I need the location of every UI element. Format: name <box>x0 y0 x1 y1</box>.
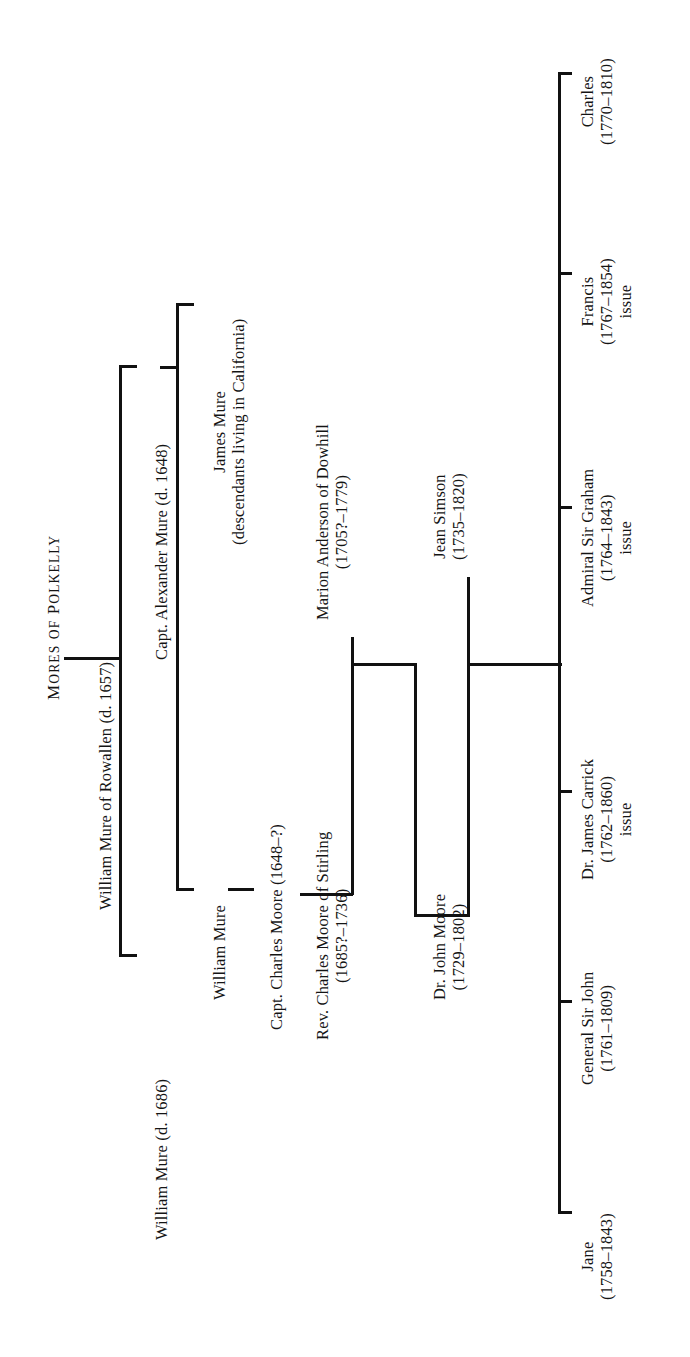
node-william-mure: William Mure <box>210 905 229 1000</box>
sibling-bar-alexander-children <box>176 303 179 891</box>
tick-james-mure <box>176 303 194 306</box>
node-label-name: General Sir John <box>578 972 597 1085</box>
tick-capt-charles-moore <box>228 888 254 891</box>
connector-john-jean-to-children <box>467 663 562 666</box>
node-label-name: Marion Anderson of Dowhill <box>313 424 332 620</box>
node-label-name: Jane <box>578 1213 597 1300</box>
tick-william-mure-1686 <box>119 954 137 957</box>
title-part-mores-cap: M <box>44 684 63 700</box>
node-william-mure-rowallen: William Mure of Rowallen (d. 1657) <box>96 662 115 910</box>
node-label-dates: (1685?–1736) <box>332 832 351 1040</box>
tick-child-james-carrick <box>558 790 572 793</box>
node-label-note: issue <box>616 469 635 607</box>
node-label-dates: (1758–1843) <box>597 1213 616 1300</box>
node-james-mure: James Mure (descendants living in Califo… <box>210 319 248 545</box>
node-child-francis: Francis (1767–1854) issue <box>578 258 635 345</box>
tick-william-mure <box>176 888 194 891</box>
node-label-note: (descendants living in California) <box>229 319 248 545</box>
node-child-jane: Jane (1758–1843) <box>578 1213 616 1300</box>
title-part-of: OF <box>47 620 62 640</box>
node-label-text: Capt. Alexander Mure (d. 1648) <box>152 444 171 660</box>
node-label-dates: (1762–1860) <box>597 759 616 880</box>
node-marion-anderson-dowhill: Marion Anderson of Dowhill (1705?–1779) <box>313 424 351 620</box>
node-child-dr-james-carrick: Dr. James Carrick (1762–1860) issue <box>578 759 635 880</box>
node-jean-simson: Jean Simson (1735–1820) <box>430 473 468 560</box>
node-label-dates: (1764–1843) <box>597 469 616 607</box>
tick-child-francis <box>558 272 572 275</box>
node-label-dates: (1735–1820) <box>449 473 468 560</box>
node-label-text: William Mure (d. 1686) <box>152 1079 171 1240</box>
node-capt-alexander-mure: Capt. Alexander Mure (d. 1648) <box>152 444 171 660</box>
node-child-general-sir-john: General Sir John (1761–1809) <box>578 972 616 1085</box>
tick-child-charles <box>558 72 572 75</box>
title-part-polkelly-cap: P <box>44 604 63 615</box>
connector-root-to-children <box>90 657 121 660</box>
node-label-text: William Mure <box>210 905 229 1000</box>
tick-child-general-john <box>558 1000 572 1003</box>
node-child-admiral-sir-graham: Admiral Sir Graham (1764–1843) issue <box>578 469 635 607</box>
node-capt-charles-moore: Capt. Charles Moore (1648–?) <box>267 824 286 1030</box>
title-part-mores-rest: ORES <box>47 645 62 684</box>
descent-charles-marion-horizontal <box>351 663 417 666</box>
node-label-dates: (1767–1854) <box>597 258 616 345</box>
node-label-name: Francis <box>578 258 597 345</box>
node-label-name: Charles <box>578 58 597 145</box>
title-part-polkelly-rest: OLKELLY <box>47 535 62 604</box>
marriage-line-charles-marion <box>351 637 354 895</box>
node-william-mure-1686: William Mure (d. 1686) <box>152 1079 171 1240</box>
node-label-name: Admiral Sir Graham <box>578 469 597 607</box>
node-label-dates: (1770–1810) <box>597 58 616 145</box>
node-label-dates: (1705?–1779) <box>332 424 351 620</box>
node-dr-john-moore: Dr. John Moore (1729–1802) <box>430 894 468 1000</box>
node-label-text: William Mure of Rowallen (d. 1657) <box>96 662 115 910</box>
marriage-line-john-jean <box>467 577 470 917</box>
node-label-name: Rev. Charles Moore of Stirling <box>313 832 332 1040</box>
sibling-bar-moore-children <box>558 72 561 1214</box>
node-label-name: Jean Simson <box>430 473 449 560</box>
node-label-note: issue <box>616 759 635 880</box>
descent-charles-marion-vertical <box>414 663 417 917</box>
connector-alexander-to-children <box>160 366 178 369</box>
node-label-dates: (1761–1809) <box>597 972 616 1085</box>
tick-capt-alexander-mure <box>119 365 137 368</box>
family-tree-diagram: MORES OF POLKELLY William Mure of Rowall… <box>0 0 690 1357</box>
sibling-bar-rowallen-children <box>119 365 122 957</box>
node-label-text: Capt. Charles Moore (1648–?) <box>267 824 286 1030</box>
root-tick-line <box>64 657 90 660</box>
node-rev-charles-moore-stirling: Rev. Charles Moore of Stirling (1685?–17… <box>313 832 351 1040</box>
node-label-name: James Mure <box>210 319 229 545</box>
node-label-note: issue <box>616 258 635 345</box>
tick-child-graham <box>558 506 572 509</box>
diagram-title: MORES OF POLKELLY <box>44 535 64 700</box>
node-label-name: Dr. James Carrick <box>578 759 597 880</box>
node-child-charles: Charles (1770–1810) <box>578 58 616 145</box>
tick-child-jane <box>558 1211 572 1214</box>
node-label-name: Dr. John Moore <box>430 894 449 1000</box>
node-label-dates: (1729–1802) <box>449 894 468 1000</box>
